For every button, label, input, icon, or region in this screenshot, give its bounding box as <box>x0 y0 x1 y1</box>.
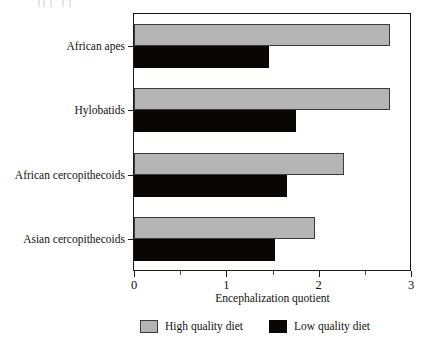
chart-legend: High quality diet Low quality diet <box>140 316 420 336</box>
bar-low-quality <box>134 175 287 197</box>
legend-entry-low-quality: Low quality diet <box>269 320 370 333</box>
x-axis-tick-label-0: 0 <box>131 278 137 292</box>
plot-area <box>134 14 411 271</box>
x-axis-major-tick <box>411 271 412 277</box>
legend-label-high-quality: High quality diet <box>165 320 243 333</box>
bar-low-quality <box>134 46 269 68</box>
category-label-3: Asian cercopithecoids <box>23 233 125 245</box>
category-label-2: African cercopithecoids <box>15 169 125 181</box>
y-axis-tick <box>128 46 134 47</box>
x-axis-title: Encephalization quotient <box>134 291 411 305</box>
y-axis-tick <box>128 175 134 176</box>
y-axis-tick <box>128 239 134 240</box>
scan-artifact <box>36 0 82 7</box>
bar-low-quality <box>134 239 275 261</box>
high-quality-swatch-icon <box>140 320 158 333</box>
y-axis-ticks <box>134 14 135 271</box>
low-quality-swatch-icon <box>269 320 287 333</box>
category-label-0: African apes <box>67 40 125 52</box>
bar-high-quality <box>134 24 390 46</box>
x-axis-tick-label-3: 3 <box>408 278 414 292</box>
bar-high-quality <box>134 153 344 175</box>
y-axis-category-labels: African apesHylobatidsAfrican cercopithe… <box>0 14 125 271</box>
chart-figure: African apesHylobatidsAfrican cercopithe… <box>0 0 431 343</box>
x-axis-tick-label-2: 2 <box>316 278 322 292</box>
legend-entry-high-quality: High quality diet <box>140 320 243 333</box>
x-axis-tick-label-1: 1 <box>223 278 229 292</box>
bar-low-quality <box>134 110 296 132</box>
bar-high-quality <box>134 217 315 239</box>
bar-high-quality <box>134 88 390 110</box>
y-axis-tick <box>128 110 134 111</box>
legend-label-low-quality: Low quality diet <box>294 320 370 333</box>
category-label-1: Hylobatids <box>75 104 125 116</box>
